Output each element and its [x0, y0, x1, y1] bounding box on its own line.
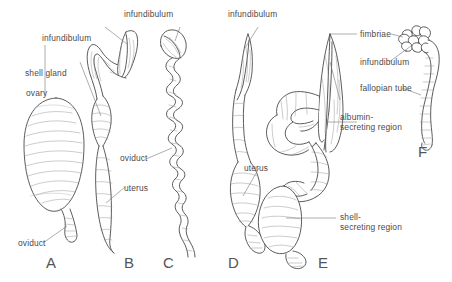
label-albumin-line1: albumin-: [340, 112, 373, 122]
label-shell-secreting-region: shell- secreting region: [340, 212, 448, 232]
panel-letter-e: E: [318, 254, 329, 271]
panel-letter-b: B: [124, 254, 135, 271]
panel-b-oviduct-drawing: [80, 27, 138, 253]
panel-c-oviduct-drawing: [146, 27, 195, 257]
panel-e-oviduct-drawing: [258, 34, 357, 269]
panel-letter-c: C: [163, 254, 174, 271]
label-albumin-line2: secreting region: [340, 122, 402, 132]
label-infundibulum-c: infundibulum: [124, 9, 173, 19]
label-uterus-d: uterus: [244, 163, 268, 173]
label-ovary: ovary: [26, 88, 47, 98]
label-shell-line1: shell-: [340, 212, 361, 222]
label-shell-gland: shell gland: [25, 68, 67, 78]
label-uterus-b: uterus: [124, 183, 148, 193]
panel-letter-d: D: [228, 254, 239, 271]
label-fallopian-tube: fallopian tube: [360, 83, 412, 93]
anatomical-figure: .o { fill:#ffffff; stroke:#3f3f3f; strok…: [0, 0, 452, 282]
label-shell-line2: secreting region: [340, 222, 402, 232]
label-fimbriae: fimbriae: [360, 29, 391, 39]
panel-letter-f: F: [418, 143, 428, 160]
label-infundibulum-e: infundibulum: [360, 57, 409, 67]
label-oviduct-c: oviduct: [120, 153, 148, 163]
panel-letter-a: A: [46, 254, 57, 271]
label-albumin-secreting-region: albumin- secreting region: [340, 112, 448, 132]
label-infundibulum-b: infundibulum: [42, 33, 91, 43]
label-infundibulum-d: infundibulum: [228, 9, 277, 19]
label-oviduct-a: oviduct: [18, 238, 46, 248]
